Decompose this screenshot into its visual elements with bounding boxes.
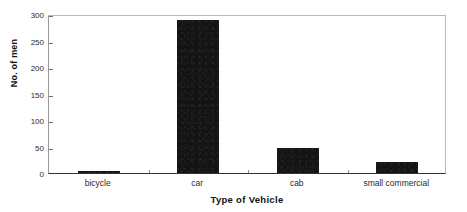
x-axis-tick-label: bicycle xyxy=(85,178,111,188)
y-axis-tickmark xyxy=(49,149,53,150)
y-axis-tickmark xyxy=(49,96,53,97)
bar-car xyxy=(177,20,219,173)
bar-cab xyxy=(277,148,319,173)
y-axis-tick-label: 250 xyxy=(31,39,44,47)
y-axis-tick-label: 50 xyxy=(35,145,44,153)
x-axis-tick-label: cab xyxy=(290,178,304,188)
x-axis-tickmark xyxy=(248,170,249,173)
y-axis-tick-label: 0 xyxy=(40,171,44,179)
x-axis-tickmark xyxy=(149,170,150,173)
y-axis-tick-label: 300 xyxy=(31,12,44,20)
x-axis-tick-label: car xyxy=(191,178,203,188)
x-axis-tickmark xyxy=(348,170,349,173)
bar-chart: No. of men 050100150200250300 Type of Ve… xyxy=(0,0,467,212)
x-axis-tick-label: small commercial xyxy=(363,178,429,188)
y-axis-tickmark xyxy=(49,69,53,70)
x-axis-title: Type of Vehicle xyxy=(48,194,446,205)
bar-small-commercial xyxy=(376,162,418,173)
y-axis-title: No. of men xyxy=(9,17,19,109)
y-axis-tick-label: 200 xyxy=(31,65,44,73)
bar-bicycle xyxy=(78,171,120,173)
y-axis-tickmark xyxy=(49,122,53,123)
y-axis-tick-label: 150 xyxy=(31,92,44,100)
y-axis-tickmark xyxy=(49,16,53,17)
y-axis-tickmark xyxy=(49,43,53,44)
plot-area: 050100150200250300 xyxy=(48,15,446,174)
y-axis-tick-label: 100 xyxy=(31,118,44,126)
